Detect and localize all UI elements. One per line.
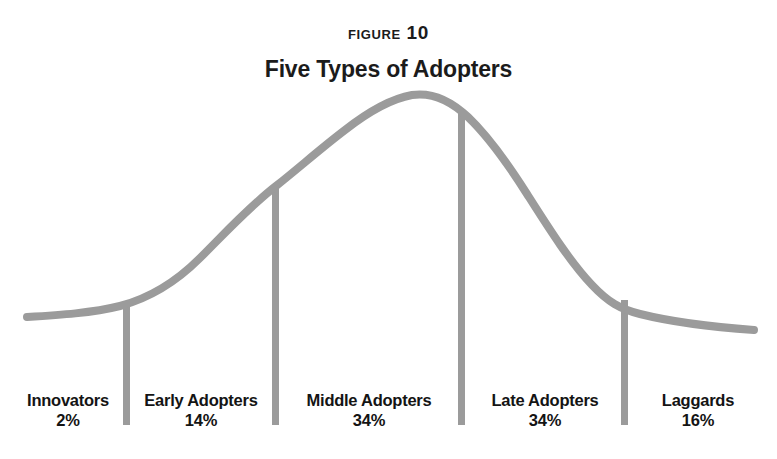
divider-middle-late — [458, 112, 465, 425]
segment-label-innovators: Innovators 2% — [12, 390, 124, 430]
segment-name: Innovators — [12, 390, 124, 410]
divider-late-laggards — [621, 300, 628, 425]
divider-early-middle — [272, 186, 279, 425]
segment-label-late-adopters: Late Adopters 34% — [477, 390, 613, 430]
segment-percent: 34% — [477, 410, 613, 430]
segment-percent: 2% — [12, 410, 124, 430]
segment-dividers — [123, 112, 628, 425]
divider-innovators-early — [123, 303, 130, 425]
segment-name: Early Adopters — [137, 390, 265, 410]
segment-percent: 34% — [290, 410, 448, 430]
bell-curve-line — [27, 94, 754, 330]
figure-container: Figure 10 Five Types of Adopters Innovat… — [0, 0, 777, 459]
segment-label-laggards: Laggards 16% — [643, 390, 753, 430]
segment-percent: 14% — [137, 410, 265, 430]
segment-name: Laggards — [643, 390, 753, 410]
segment-name: Middle Adopters — [290, 390, 448, 410]
segment-name: Late Adopters — [477, 390, 613, 410]
segment-percent: 16% — [643, 410, 753, 430]
segment-label-middle-adopters: Middle Adopters 34% — [290, 390, 448, 430]
segment-label-early-adopters: Early Adopters 14% — [137, 390, 265, 430]
